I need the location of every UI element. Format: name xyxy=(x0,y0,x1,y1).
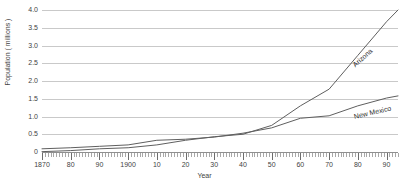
x-minor-tick xyxy=(223,153,224,157)
y-tick-label: 2.0 xyxy=(0,77,38,85)
x-minor-tick xyxy=(148,153,149,157)
x-minor-tick xyxy=(395,153,396,157)
x-minor-tick xyxy=(203,153,204,157)
x-minor-tick xyxy=(375,153,376,157)
x-minor-tick xyxy=(82,153,83,157)
x-minor-tick xyxy=(220,153,221,157)
x-major-tick xyxy=(214,153,215,160)
series-line-new-mexico xyxy=(42,96,398,149)
x-minor-tick xyxy=(140,153,141,157)
x-major-tick xyxy=(42,153,43,160)
x-minor-tick xyxy=(154,153,155,157)
x-minor-tick xyxy=(341,153,342,157)
x-minor-tick xyxy=(338,153,339,157)
x-minor-tick xyxy=(355,153,356,157)
x-minor-tick xyxy=(298,153,299,157)
x-minor-tick xyxy=(292,153,293,157)
x-minor-tick xyxy=(134,153,135,157)
x-minor-tick xyxy=(234,153,235,157)
x-minor-tick xyxy=(384,153,385,157)
x-minor-tick xyxy=(191,153,192,157)
x-minor-tick xyxy=(309,153,310,157)
x-minor-tick xyxy=(51,153,52,157)
x-minor-tick xyxy=(209,153,210,157)
x-major-tick xyxy=(329,153,330,160)
x-minor-tick xyxy=(249,153,250,157)
x-minor-tick xyxy=(352,153,353,157)
x-minor-tick xyxy=(197,153,198,157)
x-minor-tick xyxy=(85,153,86,157)
y-tick-label: 0 xyxy=(0,148,38,156)
x-minor-tick xyxy=(114,153,115,157)
x-tick-label: 90 xyxy=(367,161,407,169)
x-minor-tick xyxy=(48,153,49,157)
x-minor-tick xyxy=(94,153,95,157)
x-minor-tick xyxy=(237,153,238,157)
x-minor-tick xyxy=(105,153,106,157)
plot-area: ArizonaNew Mexico xyxy=(42,10,398,152)
x-minor-tick xyxy=(131,153,132,157)
x-minor-tick xyxy=(306,153,307,157)
x-minor-tick xyxy=(378,153,379,157)
x-minor-tick xyxy=(62,153,63,157)
x-minor-tick xyxy=(364,153,365,157)
x-minor-tick xyxy=(343,153,344,157)
x-minor-tick xyxy=(68,153,69,157)
series-lines xyxy=(42,10,398,152)
x-minor-tick xyxy=(381,153,382,157)
x-minor-tick xyxy=(257,153,258,157)
x-minor-tick xyxy=(188,153,189,157)
x-major-tick xyxy=(99,153,100,160)
x-minor-tick xyxy=(91,153,92,157)
x-minor-tick xyxy=(206,153,207,157)
x-minor-tick xyxy=(137,153,138,157)
x-minor-tick xyxy=(246,153,247,157)
x-minor-tick xyxy=(361,153,362,157)
x-minor-tick xyxy=(168,153,169,157)
x-minor-tick xyxy=(269,153,270,157)
x-minor-tick xyxy=(312,153,313,157)
x-minor-tick xyxy=(125,153,126,157)
y-tick-label: 3.5 xyxy=(0,24,38,32)
y-tick-label: 1.5 xyxy=(0,95,38,103)
x-minor-tick xyxy=(88,153,89,157)
x-minor-tick xyxy=(117,153,118,157)
x-minor-tick xyxy=(45,153,46,157)
x-minor-tick xyxy=(174,153,175,157)
x-minor-tick xyxy=(275,153,276,157)
x-minor-tick xyxy=(320,153,321,157)
y-tick-label: 3.0 xyxy=(0,42,38,50)
x-minor-tick xyxy=(211,153,212,157)
x-minor-tick xyxy=(231,153,232,157)
x-major-tick xyxy=(157,153,158,160)
x-minor-tick xyxy=(326,153,327,157)
x-minor-tick xyxy=(65,153,66,157)
x-minor-tick xyxy=(171,153,172,157)
x-major-tick xyxy=(358,153,359,160)
x-minor-tick xyxy=(349,153,350,157)
x-minor-tick xyxy=(335,153,336,157)
x-minor-tick xyxy=(79,153,80,157)
x-minor-tick xyxy=(295,153,296,157)
x-major-tick xyxy=(186,153,187,160)
x-minor-tick xyxy=(346,153,347,157)
x-major-tick xyxy=(272,153,273,160)
x-minor-tick xyxy=(165,153,166,157)
x-minor-tick xyxy=(289,153,290,157)
x-major-tick xyxy=(243,153,244,160)
x-minor-tick xyxy=(200,153,201,157)
x-minor-tick xyxy=(315,153,316,157)
x-minor-tick xyxy=(277,153,278,157)
x-minor-tick xyxy=(145,153,146,157)
x-minor-tick xyxy=(76,153,77,157)
x-minor-tick xyxy=(122,153,123,157)
x-axis-title: Year xyxy=(0,172,409,180)
x-major-tick xyxy=(387,153,388,160)
x-minor-tick xyxy=(183,153,184,157)
x-major-tick xyxy=(128,153,129,160)
x-minor-tick xyxy=(229,153,230,157)
x-minor-tick xyxy=(53,153,54,157)
x-minor-tick xyxy=(283,153,284,157)
x-minor-tick xyxy=(163,153,164,157)
x-minor-tick xyxy=(240,153,241,157)
